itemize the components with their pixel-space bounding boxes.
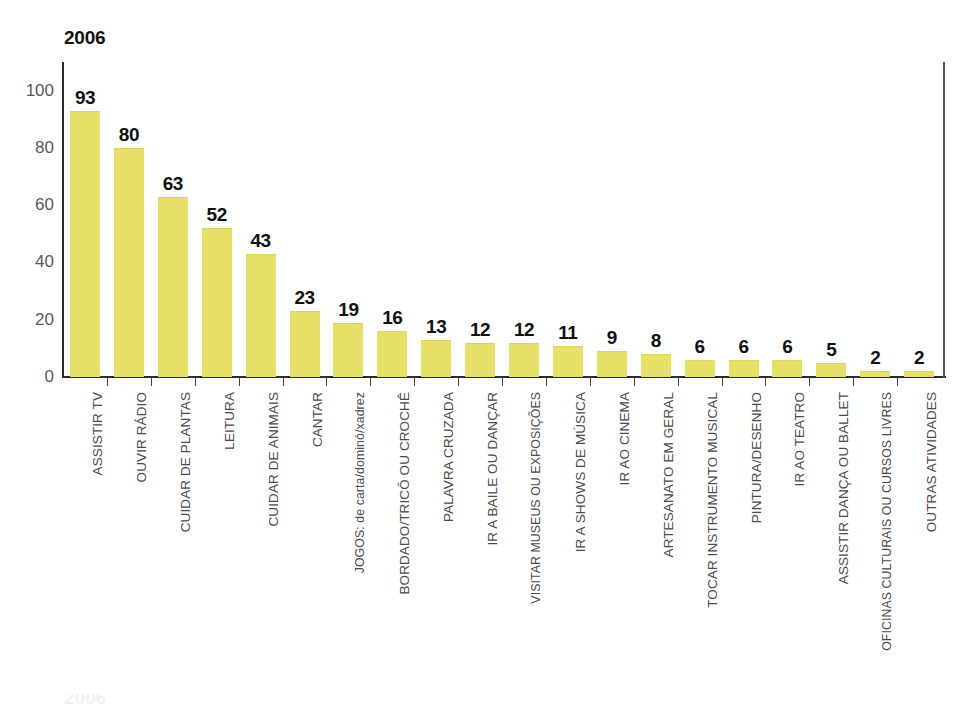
bar-slot: 19	[327, 62, 371, 377]
bar-value-label: 6	[685, 336, 715, 358]
x-category-label: OFICINAS CULTURAIS OU CURSOS LIVRES	[880, 392, 894, 651]
bar-slot: 93	[64, 62, 108, 377]
bar[interactable]	[70, 111, 100, 377]
bar-slot: 43	[240, 62, 284, 377]
bar-value-label: 12	[465, 319, 495, 341]
x-category-label: VISITAR MUSEUS OU EXPOSIÇÕES	[529, 392, 543, 604]
bar-slot: 9	[591, 62, 635, 377]
bar-slot: 23	[284, 62, 328, 377]
x-category-label: OUTRAS ATIVIDADES	[924, 392, 939, 532]
x-tick-mark	[414, 377, 415, 386]
bar[interactable]	[641, 354, 671, 377]
bar-value-label: 2	[860, 347, 890, 369]
bar[interactable]	[421, 340, 451, 377]
x-tick-mark	[458, 377, 459, 386]
bar[interactable]	[377, 331, 407, 377]
bar-slot: 63	[152, 62, 196, 377]
bar-value-label: 11	[553, 322, 583, 344]
bar-slot: 52	[196, 62, 240, 377]
x-tick-mark	[897, 377, 898, 386]
x-category-label: JOGOS: de carta/dominó/xadrez	[353, 392, 367, 573]
x-category-label: CANTAR	[310, 392, 325, 447]
bar-slot: 5	[810, 62, 854, 377]
x-category-label: IR A BAILE OU DANÇAR	[485, 392, 500, 546]
x-category-label: ASSISTIR TV	[90, 392, 105, 475]
bar[interactable]	[816, 363, 846, 377]
x-category-label: ASSISTIR DANÇA OU BALLET	[836, 392, 851, 584]
x-tick-mark	[326, 377, 327, 386]
x-tick-mark	[107, 377, 108, 386]
bar-slot: 16	[371, 62, 415, 377]
bar-slot: 11	[547, 62, 591, 377]
bar-value-label: 6	[729, 336, 759, 358]
x-tick-mark	[195, 377, 196, 386]
bar-value-label: 52	[202, 204, 232, 226]
y-tick-label-0: 0	[6, 367, 54, 387]
bar-value-label: 8	[641, 330, 671, 352]
bar-slot: 2	[854, 62, 898, 377]
x-category-label: PALAVRA CRUZADA	[441, 392, 456, 522]
y-tick-label-20: 20	[6, 310, 54, 330]
bar[interactable]	[290, 311, 320, 377]
bar-value-label: 93	[70, 87, 100, 109]
bar-slot: 13	[415, 62, 459, 377]
bar-slot: 6	[766, 62, 810, 377]
bar-value-label: 9	[597, 327, 627, 349]
bar-value-label: 5	[816, 339, 846, 361]
bar[interactable]	[509, 343, 539, 377]
x-category-label: CUIDAR DE PLANTAS	[178, 392, 193, 532]
bar[interactable]	[202, 228, 232, 377]
x-category-label: IR A SHOWS DE MÚSICA	[573, 392, 588, 552]
x-tick-mark	[590, 377, 591, 386]
x-category-label: TOCAR INSTRUMENTO MUSICAL	[705, 392, 720, 608]
bar-value-label: 13	[421, 316, 451, 338]
bar-value-label: 12	[509, 319, 539, 341]
bar-slot: 8	[635, 62, 679, 377]
x-tick-mark	[765, 377, 766, 386]
bar[interactable]	[860, 371, 890, 377]
bar[interactable]	[465, 343, 495, 377]
bar[interactable]	[729, 360, 759, 377]
x-category-label: ARTESANATO EM GERAL	[661, 392, 676, 557]
bar[interactable]	[158, 197, 188, 377]
footer-clipped-text: 2006	[64, 694, 106, 708]
bar-slot: 80	[108, 62, 152, 377]
x-tick-mark	[370, 377, 371, 386]
x-tick-mark	[853, 377, 854, 386]
x-category-label: OUVIR RÁDIO	[134, 392, 149, 482]
bars-area: 93806352432319161312121198666522	[64, 62, 943, 377]
y-tick-label-100: 100	[6, 81, 54, 101]
y-tick-label-40: 40	[6, 252, 54, 272]
x-tick-mark	[678, 377, 679, 386]
bar-value-label: 43	[246, 230, 276, 252]
bar[interactable]	[333, 323, 363, 377]
bar[interactable]	[772, 360, 802, 377]
bar[interactable]	[246, 254, 276, 377]
x-tick-mark	[239, 377, 240, 386]
bar[interactable]	[597, 351, 627, 377]
y-axis-tick-labels: 020406080100	[0, 0, 54, 378]
x-category-label: IR AO TEATRO	[792, 392, 807, 486]
bar-value-label: 6	[772, 336, 802, 358]
x-tick-mark	[283, 377, 284, 386]
x-category-label: IR AO CINEMA	[617, 392, 632, 485]
bar-value-label: 19	[333, 299, 363, 321]
right-axis-line	[943, 62, 945, 378]
x-tick-mark	[722, 377, 723, 386]
bar[interactable]	[114, 148, 144, 377]
y-tick-label-60: 60	[6, 195, 54, 215]
x-tick-mark	[502, 377, 503, 386]
x-category-label: BORDADO/TRICÔ OU CROCHÊ	[397, 392, 412, 595]
x-category-label: CUIDAR DE ANIMAIS	[266, 392, 281, 526]
bar-value-label: 80	[114, 124, 144, 146]
x-tick-mark	[634, 377, 635, 386]
bar-slot: 12	[503, 62, 547, 377]
bar[interactable]	[904, 371, 934, 377]
x-tick-mark	[546, 377, 547, 386]
bar-value-label: 2	[904, 347, 934, 369]
bar[interactable]	[685, 360, 715, 377]
bar[interactable]	[553, 346, 583, 378]
x-category-label: LEITURA	[222, 392, 237, 450]
bar-slot: 12	[459, 62, 503, 377]
bar-value-label: 23	[290, 287, 320, 309]
